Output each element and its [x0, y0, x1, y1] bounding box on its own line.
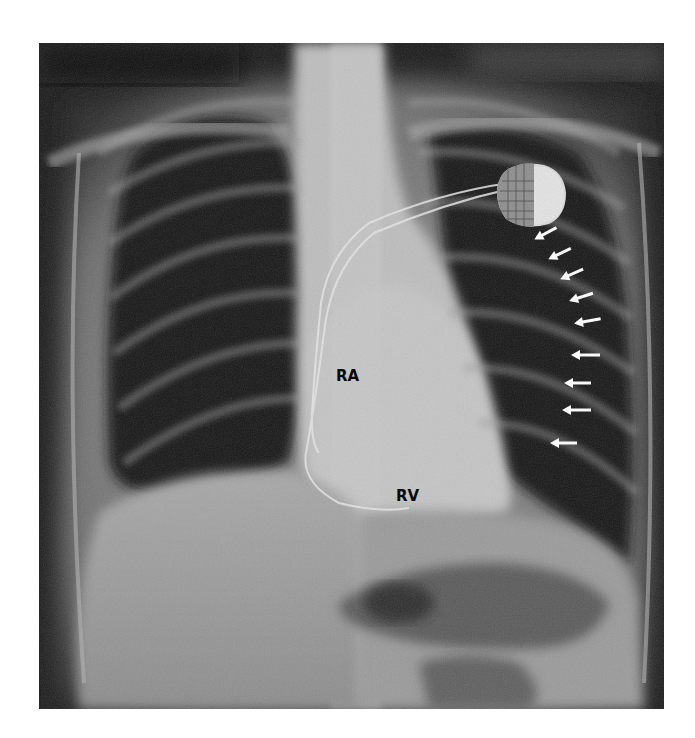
- label-right-atrium: RA: [336, 367, 359, 385]
- label-right-ventricle: RV: [396, 487, 419, 505]
